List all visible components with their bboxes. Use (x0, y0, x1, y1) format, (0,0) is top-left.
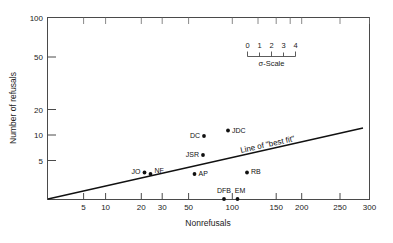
x-tick-label: 50 (184, 203, 193, 212)
x-tick-label: 200 (295, 203, 309, 212)
point-marker (193, 172, 197, 176)
sigma-scale-tick-label: 1 (257, 41, 261, 50)
y-axis-ticks (48, 18, 57, 161)
x-axis-ticks (84, 193, 370, 200)
sigma-scale-tick-labels: 0 1 2 3 4 (245, 41, 297, 50)
sigma-scale-inset: 0 1 2 3 4 σ-Scale (245, 41, 297, 68)
point-marker (245, 171, 249, 175)
point-marker (222, 197, 226, 201)
point-marker (226, 129, 230, 133)
point-marker (202, 134, 206, 138)
data-point-jdc: JDC (226, 127, 246, 134)
data-point-em: EM (235, 187, 246, 201)
data-points: JO NF AP JSR DC (132, 127, 262, 201)
scatter-plot: 100 50 20 10 5 Number of refusals 5 10 2… (0, 0, 393, 243)
point-marker (236, 197, 240, 201)
point-label: JSR (186, 151, 199, 158)
data-point-jo: JO (132, 168, 147, 175)
x-tick-label: 150 (270, 203, 284, 212)
x-axis-title: Nonrefusals (185, 218, 230, 228)
x-tick-label: 10 (101, 203, 110, 212)
point-label: DFB (217, 187, 231, 194)
sigma-scale-ruler (248, 52, 296, 57)
x-tick-label: 100 (226, 203, 240, 212)
x-tick-label: 30 (158, 203, 167, 212)
point-marker (201, 153, 205, 157)
y-tick-label: 20 (34, 106, 43, 115)
data-point-dfb: DFB (217, 187, 231, 201)
x-tick-labels: 5 10 20 30 50 100 150 200 250 300 (81, 203, 376, 212)
y-axis-title: Number of refusals (8, 72, 18, 144)
point-marker (149, 172, 153, 176)
y-tick-label: 50 (34, 53, 43, 62)
y-tick-label: 100 (30, 14, 44, 23)
plot-border (48, 18, 370, 200)
plot-frame (48, 18, 370, 200)
sigma-scale-tick-label: 0 (245, 41, 249, 50)
sigma-scale-tick-label: 3 (281, 41, 285, 50)
y-tick-label: 5 (39, 157, 44, 166)
sigma-scale-tick-label: 4 (293, 41, 297, 50)
point-label: RB (251, 168, 261, 175)
point-label: EM (235, 187, 246, 194)
x-tick-label: 20 (137, 203, 146, 212)
point-label: JDC (232, 127, 246, 134)
sigma-scale-tick-label: 2 (269, 41, 273, 50)
chart-figure: 100 50 20 10 5 Number of refusals 5 10 2… (0, 0, 393, 243)
data-point-rb: RB (245, 168, 261, 175)
point-label: AP (199, 170, 209, 177)
data-point-ap: AP (193, 170, 209, 177)
x-tick-label: 5 (81, 203, 86, 212)
best-fit-line (48, 128, 363, 199)
x-tick-label: 300 (363, 203, 377, 212)
point-label: JO (132, 168, 142, 175)
y-tick-label: 10 (34, 131, 43, 140)
best-fit-line-label: Line of "best fit" (239, 134, 295, 155)
data-point-jsr: JSR (186, 151, 205, 158)
y-tick-labels: 100 50 20 10 5 (30, 14, 44, 166)
point-label: NF (155, 167, 164, 174)
point-marker (143, 171, 147, 175)
x-tick-label: 250 (333, 203, 347, 212)
point-label: DC (190, 132, 200, 139)
top-axis-ticks (84, 18, 370, 25)
data-point-dc: DC (190, 132, 206, 139)
sigma-scale-label: σ-Scale (259, 59, 285, 68)
